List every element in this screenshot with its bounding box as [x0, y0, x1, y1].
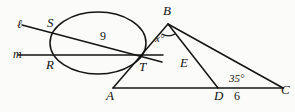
segment-BD	[168, 24, 218, 88]
circle-shape	[50, 12, 146, 74]
label-chord-length-9: 9	[100, 30, 106, 42]
label-point-E: E	[180, 56, 188, 69]
label-point-A: A	[106, 89, 114, 102]
label-line-m: m	[13, 48, 22, 60]
label-point-B: B	[163, 4, 171, 17]
label-angle-35: 35°	[229, 73, 244, 84]
label-point-S: S	[47, 16, 54, 29]
geometry-diagram: ℓ m S R 9 T B x° E A D 6 35° C	[0, 0, 295, 112]
diagram-canvas	[0, 0, 295, 112]
label-segment-length-6: 6	[234, 90, 240, 102]
label-point-T: T	[139, 60, 146, 73]
label-point-R: R	[46, 58, 54, 71]
label-line-l: ℓ	[17, 18, 22, 30]
label-angle-x: x°	[155, 33, 164, 44]
label-point-D: D	[214, 89, 223, 102]
label-point-C: C	[281, 83, 290, 96]
